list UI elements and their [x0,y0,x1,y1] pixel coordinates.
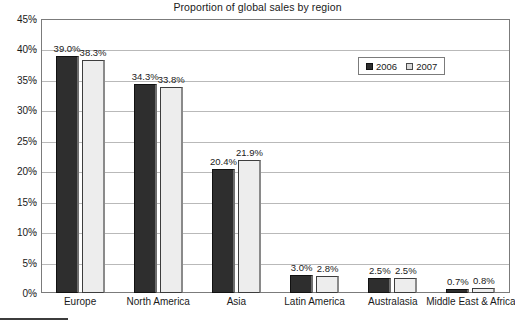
bar-value-label: 0.8% [473,275,495,286]
bar-value-label: 20.4% [210,156,237,167]
x-tick-label: Middle East & Africa [426,296,515,307]
y-tick-mark [33,49,37,50]
x-tick-label: Europe [64,296,96,307]
legend-label: 2007 [416,61,437,72]
bar-chart: Proportion of global sales by region 0%5… [0,0,515,326]
y-tick-mark [33,141,37,142]
bar-value-label: 21.9% [236,147,263,158]
legend-swatch-icon [366,63,373,70]
x-axis: EuropeNorth AmericaAsiaLatin AmericaAust… [41,296,510,312]
bar-value-label: 34.3% [132,71,159,82]
x-tick-label: North America [127,296,190,307]
bar-asia-2007 [238,160,261,293]
bar-europe-2007 [82,60,105,293]
y-tick-mark [33,232,37,233]
bar-latin-america-2007 [316,276,339,293]
y-tick-mark [33,110,37,111]
bar-value-label: 39.0% [54,43,81,54]
y-axis: 0%5%10%15%20%25%30%35%40%45% [0,19,37,293]
y-tick-mark [33,293,37,294]
bar-value-label: 3.0% [291,262,313,273]
bar-europe-2006 [56,56,79,293]
legend-entry-2007[interactable]: 2007 [406,61,437,72]
y-tick-mark [33,80,37,81]
x-tick-label: Latin America [284,296,345,307]
legend-swatch-icon [406,63,413,70]
y-tick-mark [33,171,37,172]
y-tick-mark [33,19,37,20]
legend-label: 2006 [376,61,397,72]
bar-value-label: 33.8% [158,74,185,85]
chart-title: Proportion of global sales by region [0,1,515,13]
bar-north-america-2007 [160,87,183,293]
x-tick-label: Asia [227,296,246,307]
bottom-rule [0,318,68,320]
chart-legend: 20062007 [358,57,445,75]
bar-value-label: 0.7% [447,276,469,287]
bar-value-label: 2.5% [395,265,417,276]
legend-entry-2006[interactable]: 2006 [366,61,397,72]
y-tick-mark [33,202,37,203]
bar-value-label: 2.5% [369,265,391,276]
bar-middle-east-africa-2007 [472,288,495,293]
bar-latin-america-2006 [290,275,313,293]
bar-value-label: 38.3% [80,47,107,58]
x-tick-label: Australasia [368,296,417,307]
bar-asia-2006 [212,169,235,293]
bar-north-america-2006 [134,84,157,293]
y-tick-mark [33,263,37,264]
bar-australasia-2006 [368,278,391,293]
bar-australasia-2007 [394,278,417,293]
bar-middle-east-africa-2006 [446,289,469,293]
bar-value-label: 2.8% [317,263,339,274]
